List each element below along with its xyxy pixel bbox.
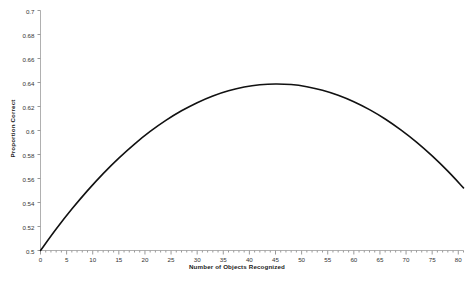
x-tick-label: 40 [246,256,253,263]
x-tick-label: 55 [324,256,331,263]
data-series-group [41,84,464,251]
x-tick-label: 45 [272,256,279,263]
y-axis-title: Proportion Correct [9,84,16,174]
y-tick-label: 0.66 [0,55,35,62]
x-tick-label: 25 [168,256,175,263]
data-line-proportion-correct [41,84,464,251]
x-tick-label: 5 [65,256,68,263]
x-tick-label: 0 [39,256,42,263]
x-tick-label: 20 [141,256,148,263]
y-tick-label: 0.7 [0,7,35,14]
y-tick-label: 0.58 [0,151,35,158]
y-tick-label: 0.54 [0,199,35,206]
x-axis-title: Number of Objects Recognized [0,263,474,270]
x-tick-label: 50 [298,256,305,263]
x-tick-label: 70 [403,256,410,263]
y-tick-label: 0.62 [0,103,35,110]
chart-plot-area [0,0,474,285]
x-axis [41,251,464,255]
x-tick-label: 10 [89,256,96,263]
y-tick-label: 0.64 [0,79,35,86]
y-tick-label: 0.6 [0,127,35,134]
y-tick-label: 0.5 [0,247,35,254]
x-tick-label: 30 [194,256,201,263]
x-tick-label: 60 [350,256,357,263]
y-tick-label: 0.56 [0,175,35,182]
y-tick-label: 0.52 [0,223,35,230]
x-tick-label: 65 [376,256,383,263]
x-tick-label: 80 [455,256,462,263]
x-tick-label: 75 [429,256,436,263]
chart-container: 0.50.520.540.560.580.60.620.640.660.680.… [0,0,474,285]
x-tick-label: 35 [220,256,227,263]
y-axis [38,11,41,251]
x-tick-label: 15 [115,256,122,263]
y-tick-label: 0.68 [0,31,35,38]
